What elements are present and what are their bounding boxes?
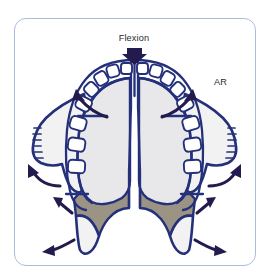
maxilla-occlusal-diagram: Flexion AR xyxy=(0,0,269,280)
expansion-arrow-bottom-left xyxy=(42,240,74,256)
expansion-arrow-bottom-right xyxy=(195,240,227,256)
expansion-arrow-mid-right xyxy=(209,164,241,186)
tooth xyxy=(184,160,202,174)
expansion-arrow-inner-right xyxy=(197,197,216,213)
expansion-arrow-mid-left xyxy=(28,164,60,186)
tooth xyxy=(121,63,132,74)
tooth xyxy=(67,137,86,152)
flexion-label: Flexion xyxy=(119,33,150,43)
tooth xyxy=(68,160,86,174)
expansion-arrow-inner-left xyxy=(53,197,72,213)
tooth xyxy=(183,137,202,152)
tooth xyxy=(137,63,148,74)
ar-label: AR xyxy=(214,77,227,87)
